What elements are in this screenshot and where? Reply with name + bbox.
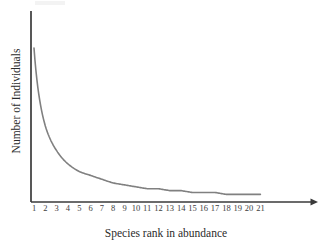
- x-axis-tick-labels: 123456789101112131415161718192021: [0, 203, 332, 217]
- x-tick-label-8: 8: [111, 203, 115, 214]
- x-tick-label-17: 17: [211, 203, 220, 214]
- x-tick-label-1: 1: [32, 203, 36, 214]
- x-tick-label-3: 3: [55, 203, 59, 214]
- y-axis-title: Number of Individuals: [6, 0, 26, 202]
- x-tick-label-6: 6: [88, 203, 92, 214]
- x-tick-label-13: 13: [166, 203, 175, 214]
- x-axis-title: Species rank in abundance: [0, 226, 332, 240]
- x-tick-label-9: 9: [122, 203, 126, 214]
- x-tick-label-7: 7: [100, 203, 104, 214]
- x-tick-label-4: 4: [66, 203, 70, 214]
- y-axis-title-text: Number of Individuals: [9, 49, 23, 154]
- rank-abundance-figure: 123456789101112131415161718192021 Number…: [0, 0, 332, 250]
- x-tick-label-21: 21: [256, 203, 265, 214]
- x-tick-label-18: 18: [222, 203, 231, 214]
- x-tick-label-16: 16: [200, 203, 209, 214]
- x-tick-label-11: 11: [143, 203, 151, 214]
- x-tick-label-15: 15: [188, 203, 197, 214]
- x-tick-label-12: 12: [154, 203, 163, 214]
- x-tick-label-10: 10: [132, 203, 141, 214]
- x-tick-label-14: 14: [177, 203, 186, 214]
- x-tick-label-2: 2: [43, 203, 47, 214]
- x-tick-label-5: 5: [77, 203, 81, 214]
- abundance-curve: [34, 48, 260, 194]
- x-tick-label-20: 20: [245, 203, 254, 214]
- x-tick-label-19: 19: [234, 203, 243, 214]
